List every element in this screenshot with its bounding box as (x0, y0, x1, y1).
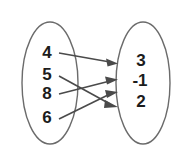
range-element-1: -1 (132, 71, 147, 90)
mapping-diagram-canvas: 4 5 8 6 3 -1 2 (0, 0, 178, 160)
domain-element-2: 8 (42, 84, 51, 103)
domain-element-0: 4 (42, 43, 52, 62)
domain-element-1: 5 (42, 65, 51, 84)
arrow-4-to-3 (59, 53, 118, 67)
domain-element-3: 6 (42, 108, 51, 127)
mapping-diagram: 4 5 8 6 3 -1 2 (0, 0, 178, 160)
range-element-2: 2 (136, 92, 145, 111)
arrowhead-icon (104, 100, 118, 108)
range-element-0: 3 (136, 51, 145, 70)
arrowhead-icon (106, 59, 118, 67)
